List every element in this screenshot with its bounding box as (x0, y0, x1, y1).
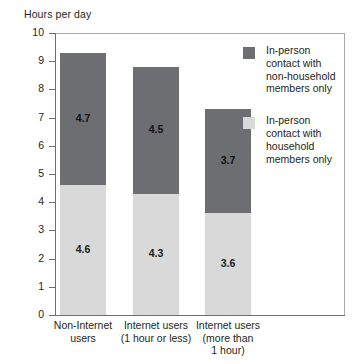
y-axis-tick-label: 6 (38, 139, 44, 151)
y-axis-tick-label: 5 (38, 167, 44, 179)
legend-item: In-person contact with non-household mem… (243, 44, 343, 95)
bar-segment-household: 3.6 (205, 213, 251, 315)
y-axis-tick-label: 10 (32, 26, 44, 38)
bar-segment-household: 4.3 (133, 194, 179, 315)
x-axis-label: Internet users (more than 1 hour) (180, 319, 276, 357)
legend-item: In-person contact with household members… (243, 114, 343, 165)
bar-segment-non-household: 4.7 (60, 53, 106, 186)
chart-legend: In-person contact with non-household mem… (243, 44, 343, 184)
y-axis-tick-label: 1 (38, 280, 44, 292)
bar-value-label: 4.3 (133, 247, 179, 259)
y-axis-title: Hours per day (24, 8, 91, 20)
bar-segment-household: 4.6 (60, 185, 106, 315)
y-axis-tick-label: 2 (38, 252, 44, 264)
y-axis-tick-label: 7 (38, 111, 44, 123)
bar-segment-non-household: 4.5 (133, 67, 179, 194)
legend-label: In-person contact with household members… (266, 114, 343, 165)
y-axis-tick-mark (49, 315, 55, 316)
legend-swatch (243, 47, 255, 59)
bar-value-label: 4.7 (60, 112, 106, 124)
bar-value-label: 4.5 (133, 123, 179, 135)
y-axis-tick-label: 8 (38, 82, 44, 94)
bar-value-label: 3.6 (205, 257, 251, 269)
legend-label: In-person contact with non-household mem… (266, 44, 343, 95)
bar-value-label: 4.6 (60, 243, 106, 255)
stacked-bar-chart: Hours per day 109876543210 4.64.74.34.53… (0, 0, 359, 364)
bar-group: 4.64.7 (60, 33, 106, 315)
legend-swatch (243, 117, 255, 129)
bar-group: 4.34.5 (133, 33, 179, 315)
y-axis-tick-label: 9 (38, 54, 44, 66)
x-axis-labels: Non-Internet usersInternet users (1 hour… (55, 319, 345, 364)
x-axis-line (55, 315, 345, 316)
y-axis-tick-label: 3 (38, 223, 44, 235)
y-axis-tick-label: 4 (38, 195, 44, 207)
